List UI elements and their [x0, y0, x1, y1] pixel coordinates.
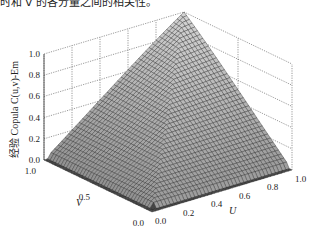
- z-tick-label: 1.0: [29, 49, 41, 59]
- u-tick-label: 0.4: [211, 199, 223, 209]
- u-axis-label: U: [229, 205, 237, 216]
- z-tick-label: 0.0: [29, 155, 41, 165]
- u-tick-label: 0.8: [267, 182, 279, 192]
- copula-surface-plot: 0.00.20.40.60.81.00.00.51.00.00.20.40.60…: [0, 0, 314, 228]
- u-tick-label: 0.2: [183, 208, 194, 218]
- u-tick-label: 1.0: [295, 174, 307, 184]
- u-tick-label: 0.6: [239, 191, 251, 201]
- surface-mesh: [44, 12, 292, 212]
- v-tick-label: 1.0: [25, 166, 37, 176]
- z-axis-label: 经验 Copula C(u,v)-Em: [8, 61, 21, 158]
- u-tick-label: 0.0: [155, 216, 167, 226]
- v-tick-label: 0.0: [133, 218, 145, 228]
- z-tick-label: 0.6: [29, 91, 41, 101]
- z-tick-label: 0.8: [29, 70, 41, 80]
- z-tick-label: 0.2: [29, 134, 40, 144]
- z-tick-label: 0.4: [29, 113, 41, 123]
